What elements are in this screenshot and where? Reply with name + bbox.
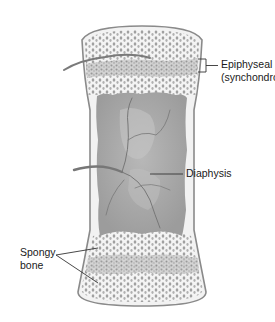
diaphysis-label: Diaphysis: [186, 167, 232, 180]
spongy-bone-label: Spongy bone: [20, 246, 56, 272]
epiphyseal-plate-label-line2: (synchondrosis): [221, 71, 275, 84]
bone-diagram: [0, 0, 275, 322]
spongy-bone-label-line1: Spongy: [20, 246, 56, 259]
epiphyseal-plate-label-line1: Epiphyseal plate: [221, 58, 275, 71]
lower-epiphysis: [81, 230, 203, 302]
spongy-bone-label-line2: bone: [20, 259, 56, 272]
medullary-cavity: [96, 92, 187, 236]
epiphyseal-plate-label: Epiphyseal plate (synchondrosis): [221, 58, 275, 84]
upper-epiphysis: [85, 30, 199, 95]
